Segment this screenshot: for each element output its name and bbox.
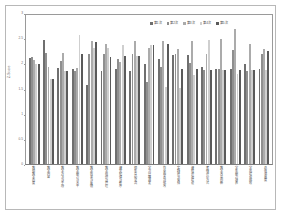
bar-group xyxy=(84,15,98,164)
x-label-cell: 师生互动交流 xyxy=(127,166,141,210)
bar xyxy=(110,57,112,164)
bar-group xyxy=(199,15,213,164)
x-label-cell: 考核评价方式 xyxy=(200,166,214,210)
legend-item[interactable]: 第1次 xyxy=(150,22,162,25)
bar xyxy=(267,51,269,164)
legend-swatch-icon xyxy=(183,22,186,25)
x-label-cell: 学习兴趣激发 xyxy=(142,166,156,210)
x-axis-label: 教学内容 xyxy=(46,166,49,178)
bar-group xyxy=(242,15,256,164)
x-axis-label: 课程资源建设 xyxy=(191,166,194,184)
bar-group xyxy=(257,15,271,164)
legend-item[interactable]: 第3次 xyxy=(183,22,195,25)
x-label-cell: 教学方法与手段 xyxy=(55,166,69,210)
x-label-cell: 课程资源建设 xyxy=(185,166,199,210)
x-axis-label: 实践环节安排 xyxy=(176,166,179,184)
x-axis-label: 作业布置与批改 xyxy=(162,166,165,187)
plot-area xyxy=(25,14,273,165)
legend-swatch-icon xyxy=(200,22,203,25)
x-axis-label: 学生能力培养 xyxy=(234,166,237,184)
legend-label: 第5次 xyxy=(220,22,228,25)
bar-group xyxy=(99,15,113,164)
legend-swatch-icon xyxy=(216,22,219,25)
y-tick-label: 1.5 xyxy=(19,88,23,91)
x-axis-label: 学风建设成效 xyxy=(249,166,252,184)
bar-group xyxy=(214,15,228,164)
bar xyxy=(66,71,68,164)
x-label-cell: 教学能力与水平 xyxy=(69,166,83,210)
x-label-cell: 课堂纪律与秩序 xyxy=(113,166,127,210)
legend-label: 第3次 xyxy=(187,22,195,25)
bar-group xyxy=(128,15,142,164)
bar xyxy=(138,56,140,164)
x-axis-label: 教学改革创新 xyxy=(220,166,223,184)
x-label-cell: 学风建设成效 xyxy=(243,166,257,210)
bar xyxy=(38,64,40,164)
x-label-cell: 学生能力培养 xyxy=(229,166,243,210)
bar-group xyxy=(70,15,84,164)
x-axis-label: 师生互动交流 xyxy=(133,166,136,184)
legend-label: 第1次 xyxy=(154,22,162,25)
x-label-cell: 教学内容 xyxy=(40,166,54,210)
bar xyxy=(153,45,155,164)
bar xyxy=(124,56,126,164)
x-axis-label: 学习兴趣激发 xyxy=(147,166,150,184)
bar-group xyxy=(156,15,170,164)
x-axis-label: 考核评价方式 xyxy=(205,166,208,184)
x-axis-label: 教学效果与反馈 xyxy=(90,166,93,187)
y-tick-label: 0.5 xyxy=(19,138,23,141)
x-label-cell: 作业布置与批改 xyxy=(156,166,170,210)
y-tick-label: 2.5 xyxy=(19,38,23,41)
bar xyxy=(181,69,183,164)
bar xyxy=(81,54,83,164)
bar-groups xyxy=(26,15,272,164)
bar xyxy=(224,70,226,164)
bar-group xyxy=(171,15,185,164)
bar-group xyxy=(27,15,41,164)
x-label-cell: 实践环节安排 xyxy=(171,166,185,210)
bar-group xyxy=(41,15,55,164)
chart-legend: 第1次第2次第3次第4次第5次 xyxy=(150,22,228,25)
bar-group xyxy=(142,15,156,164)
legend-item[interactable]: 第5次 xyxy=(216,22,228,25)
bar xyxy=(239,70,241,164)
legend-swatch-icon xyxy=(167,22,170,25)
bar xyxy=(52,79,54,164)
bar xyxy=(253,70,255,164)
legend-item[interactable]: 第2次 xyxy=(167,22,179,25)
x-axis-label: 课堂纪律与秩序 xyxy=(118,166,121,187)
x-axis-label: 教学方法与手段 xyxy=(61,166,64,187)
legend-swatch-icon xyxy=(150,22,153,25)
legend-label: 第4次 xyxy=(203,22,211,25)
bar xyxy=(210,70,212,164)
bar-group xyxy=(56,15,70,164)
legend-label: 第2次 xyxy=(170,22,178,25)
x-label-cell: 教学组织与管理 xyxy=(98,166,112,210)
bar-group xyxy=(185,15,199,164)
y-axis-ticks: 32.521.510.50 xyxy=(0,14,25,165)
x-axis-label: 教学能力与水平 xyxy=(75,166,78,187)
x-axis-label: 总体满意度 xyxy=(263,166,266,181)
bar xyxy=(167,44,169,164)
legend-item[interactable]: 第4次 xyxy=(200,22,212,25)
x-label-cell: 总体满意度 xyxy=(258,166,272,210)
x-axis-labels: 教师教学态度教学内容教学方法与手段教学能力与水平教学效果与反馈教学组织与管理课堂… xyxy=(25,166,273,210)
x-label-cell: 教师教学态度 xyxy=(26,166,40,210)
bar-group xyxy=(228,15,242,164)
chart-container: Z-Score 32.521.510.50 教师教学态度教学内容教学方法与手段教… xyxy=(0,0,281,215)
bar-group xyxy=(113,15,127,164)
x-axis-label: 教师教学态度 xyxy=(32,166,35,184)
x-label-cell: 教学改革创新 xyxy=(214,166,228,210)
x-axis-label: 教学组织与管理 xyxy=(104,166,107,187)
x-label-cell: 教学效果与反馈 xyxy=(84,166,98,210)
bar xyxy=(95,42,97,164)
bar xyxy=(196,69,198,164)
